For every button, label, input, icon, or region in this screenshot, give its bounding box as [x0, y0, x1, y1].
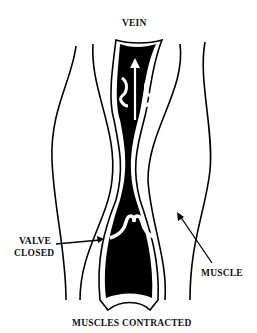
- muscles-contracted-caption: MUSCLES CONTRACTED: [72, 318, 191, 328]
- muscle-pointer-arrow: [0, 0, 257, 333]
